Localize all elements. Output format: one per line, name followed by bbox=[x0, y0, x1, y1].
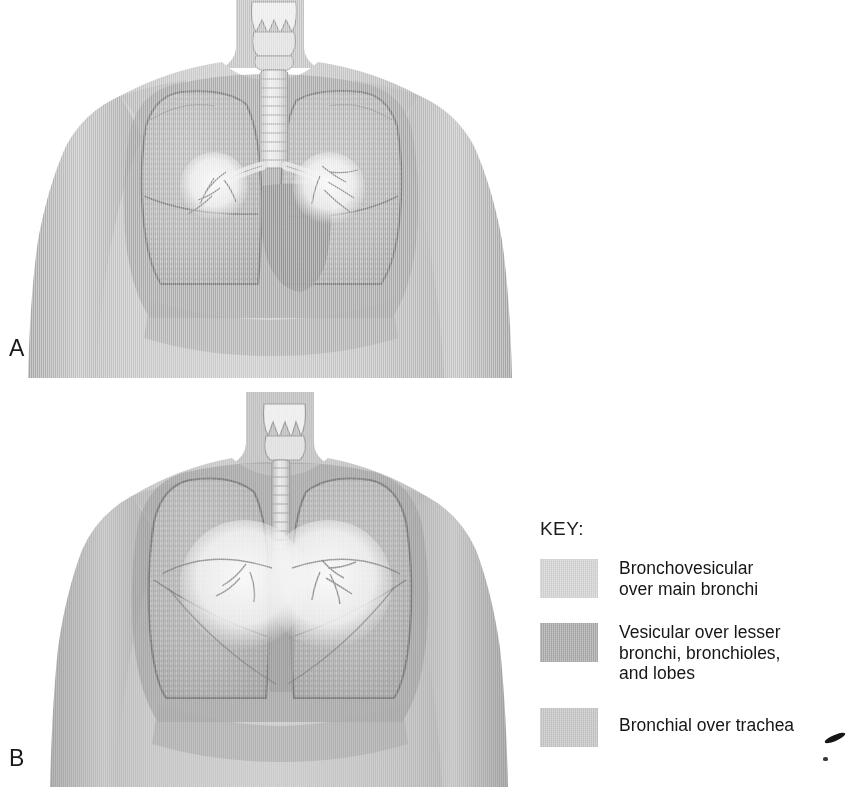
legend-item-vesicular: Vesicular over lesser bronchi, bronchiol… bbox=[540, 621, 853, 684]
legend-label-vesicular: Vesicular over lesser bronchi, bronchiol… bbox=[619, 621, 780, 684]
stray-scan-dot bbox=[823, 757, 828, 761]
panel-label-a: A bbox=[9, 337, 24, 360]
posterior-torso-illustration bbox=[40, 392, 520, 787]
legend: KEY: Bronchovesicular over main bronchi … bbox=[540, 518, 853, 747]
anterior-torso-illustration bbox=[0, 0, 520, 378]
legend-item-bronchovesicular: Bronchovesicular over main bronchi bbox=[540, 557, 853, 599]
legend-label-bronchial: Bronchial over trachea bbox=[619, 706, 794, 736]
legend-swatch-bronchial bbox=[540, 708, 598, 747]
legend-swatch-vesicular bbox=[540, 623, 598, 662]
legend-label-bronchovesicular: Bronchovesicular over main bronchi bbox=[619, 557, 758, 599]
legend-title: KEY: bbox=[540, 518, 853, 540]
auscultation-site-main-bronchus-left bbox=[180, 152, 248, 220]
figure-panel-anterior bbox=[0, 0, 520, 378]
auscultation-site-main-bronchus-right bbox=[264, 520, 392, 648]
legend-item-bronchial: Bronchial over trachea bbox=[540, 706, 853, 747]
auscultation-site-main-bronchus-right bbox=[293, 152, 365, 224]
panel-label-b: B bbox=[9, 747, 24, 770]
larynx bbox=[252, 2, 297, 70]
trachea bbox=[260, 70, 288, 168]
legend-swatch-bronchovesicular bbox=[540, 559, 598, 598]
figure-panel-posterior bbox=[40, 392, 520, 787]
